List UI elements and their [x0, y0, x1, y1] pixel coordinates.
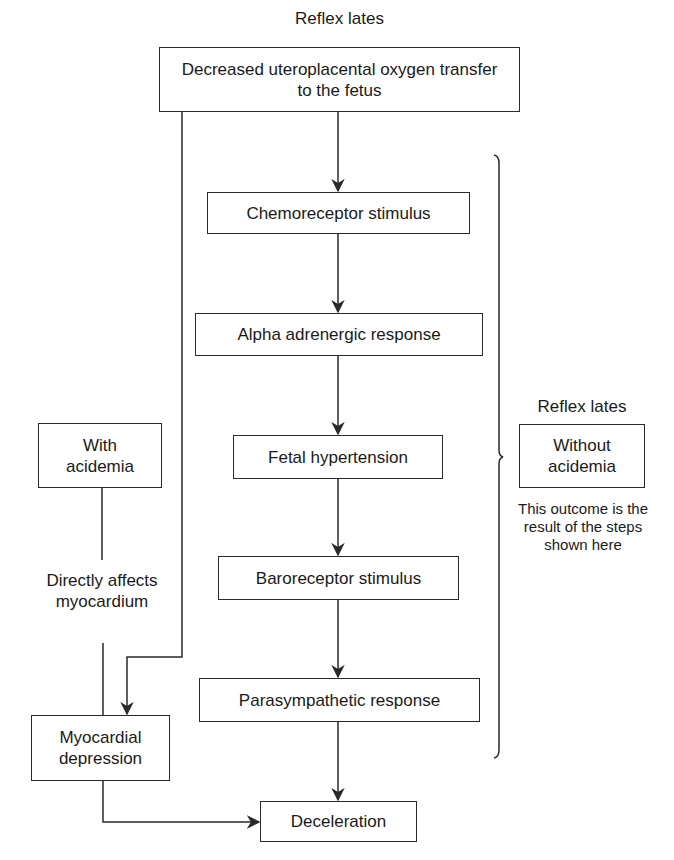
node-start: Decreased uteroplacental oxygen transfer… [159, 47, 520, 112]
node-without-acidemia-label: Without acidemia [542, 435, 622, 477]
node-with-acidemia: With acidemia [38, 423, 162, 488]
node-baroreceptor: Baroreceptor stimulus [218, 556, 459, 600]
node-myocardial: Myocardial depression [31, 715, 170, 781]
top-heading: Reflex lates [159, 8, 520, 29]
arrow-start-to-myocardial [127, 111, 182, 714]
node-start-label: Decreased uteroplacental oxygen transfer… [180, 59, 499, 101]
right-caption: This outcome is the result of the steps … [512, 500, 654, 554]
node-deceleration: Deceleration [260, 801, 417, 842]
brace-bracket [494, 155, 503, 758]
node-alpha-label: Alpha adrenergic response [237, 324, 440, 345]
node-baroreceptor-label: Baroreceptor stimulus [256, 568, 421, 589]
node-hypertension: Fetal hypertension [233, 435, 443, 479]
node-alpha: Alpha adrenergic response [195, 313, 483, 356]
node-parasympathetic-label: Parasympathetic response [239, 690, 440, 711]
node-without-acidemia: Without acidemia [519, 424, 645, 488]
node-chemoreceptor: Chemoreceptor stimulus [207, 192, 470, 234]
right-heading: Reflex lates [510, 396, 654, 417]
node-chemoreceptor-label: Chemoreceptor stimulus [246, 203, 430, 224]
node-with-acidemia-label: With acidemia [57, 435, 143, 477]
node-hypertension-label: Fetal hypertension [268, 447, 408, 468]
arrow-myocardial-to-deceleration [103, 780, 259, 822]
left-path-label: Directly affects myocardium [32, 570, 172, 612]
node-deceleration-label: Deceleration [291, 811, 386, 832]
node-parasympathetic: Parasympathetic response [199, 678, 480, 722]
node-myocardial-label: Myocardial depression [50, 727, 151, 769]
